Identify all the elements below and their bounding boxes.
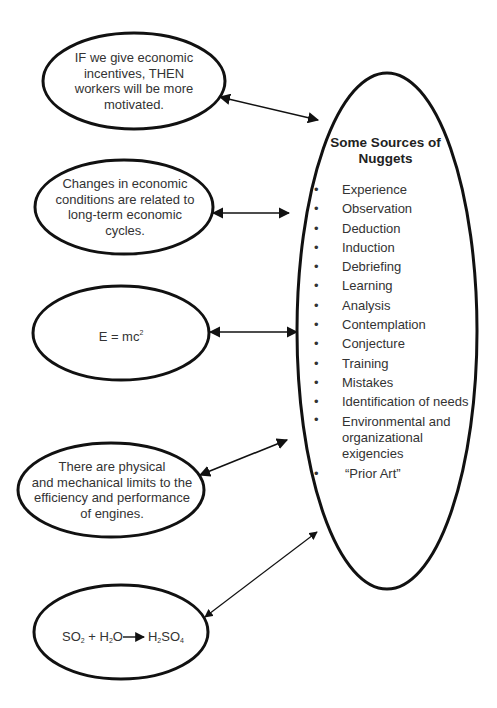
node-engine-limits: There are physical and mechanical limits…	[24, 459, 200, 521]
list-item: •Environmental and organizational exigen…	[310, 412, 472, 464]
list-item: •Training	[310, 354, 472, 373]
connector-incentives	[220, 97, 318, 120]
source-label: Analysis	[342, 298, 390, 313]
bullet-icon: •	[314, 219, 319, 238]
list-item: •Learning	[310, 276, 472, 295]
bullet-icon: •	[314, 464, 319, 483]
node-incentives-line: incentives, THEN	[60, 66, 208, 82]
node-economic-cycles-line: Changes in economic	[44, 176, 206, 192]
node-economic-cycles: Changes in economic conditions are relat…	[44, 176, 206, 238]
bullet-icon: •	[314, 315, 319, 334]
source-label: Deduction	[342, 221, 401, 236]
hub-title: Some Sources of Nuggets	[318, 135, 453, 167]
source-label: Observation	[342, 201, 412, 216]
plus-sign: +	[85, 629, 100, 644]
hub-title-line: Some Sources of	[318, 135, 453, 151]
subscript: 4	[180, 637, 184, 644]
hub-title-line: Nuggets	[318, 151, 453, 167]
bullet-icon: •	[314, 412, 319, 428]
equation-exponent: 2	[139, 329, 143, 336]
node-economic-cycles-line: cycles.	[44, 223, 206, 239]
list-item: •Analysis	[310, 296, 472, 315]
connector-engine-limits	[200, 440, 287, 475]
source-label: Training	[342, 356, 388, 371]
bullet-icon: •	[314, 180, 319, 199]
node-incentives-line: workers will be more	[60, 81, 208, 97]
bullet-icon: •	[314, 334, 319, 353]
bullet-icon: •	[314, 238, 319, 257]
list-item: •Induction	[310, 238, 472, 257]
product-h2so4: H	[148, 629, 157, 644]
source-label: Experience	[342, 182, 407, 197]
source-label: Debriefing	[342, 259, 401, 274]
source-label: Environmental and organizational exigenc…	[342, 414, 462, 462]
node-engine-limits-line: and mechanical limits to the	[24, 475, 200, 491]
connector-sulfuric-acid	[205, 532, 317, 617]
source-label: Identification of needs	[342, 394, 468, 409]
source-label: Learning	[342, 278, 393, 293]
node-mass-energy: E = mc2	[71, 325, 171, 345]
node-engine-limits-line: There are physical	[24, 459, 200, 475]
list-item: •Identification of needs	[310, 392, 472, 411]
node-incentives: IF we give economic incentives, THEN wor…	[60, 50, 208, 112]
bullet-icon: •	[314, 199, 319, 218]
source-label: Conjecture	[342, 336, 405, 351]
source-label: “Prior Art”	[345, 466, 401, 481]
list-item: •Observation	[310, 199, 472, 218]
node-economic-cycles-line: conditions are related to	[44, 192, 206, 208]
node-incentives-line: IF we give economic	[60, 50, 208, 66]
list-item: •Experience	[310, 180, 472, 199]
list-item: •“Prior Art”	[310, 464, 475, 483]
reactant-h2o: O	[113, 629, 123, 644]
sources-list: •Experience •Observation •Deduction •Ind…	[310, 180, 475, 483]
source-label: Contemplation	[342, 317, 426, 332]
node-sulfuric-acid: SO2 + H2OH2SO4	[62, 629, 202, 649]
source-label: Mistakes	[342, 375, 393, 390]
list-item: •Mistakes	[310, 373, 472, 392]
bullet-icon: •	[314, 257, 319, 276]
list-item: •Deduction	[310, 219, 472, 238]
list-item: •Contemplation	[310, 315, 472, 334]
bullet-icon: •	[314, 373, 319, 392]
node-incentives-line: motivated.	[60, 97, 208, 113]
reactant-so2: SO	[62, 629, 81, 644]
list-item: •Debriefing	[310, 257, 472, 276]
reactant-h2o: H	[100, 629, 109, 644]
equation-base: E = mc	[99, 329, 140, 344]
bullet-icon: •	[314, 354, 319, 373]
bullet-icon: •	[314, 392, 319, 411]
list-item: •Conjecture	[310, 334, 472, 353]
product-h2so4: SO	[161, 629, 180, 644]
node-economic-cycles-line: long-term economic	[44, 207, 206, 223]
source-label: Induction	[342, 240, 395, 255]
bullet-icon: •	[314, 276, 319, 295]
node-engine-limits-line: efficiency and performance	[24, 490, 200, 506]
bullet-icon: •	[314, 296, 319, 315]
node-engine-limits-line: of engines.	[24, 506, 200, 522]
